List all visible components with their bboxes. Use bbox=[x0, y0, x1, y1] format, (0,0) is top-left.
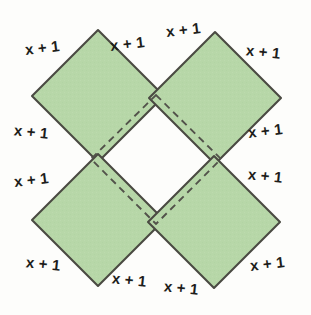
edge-label-tl-lower-left: x + 1 bbox=[13, 122, 49, 141]
edge-label-br-lower-left: x + 1 bbox=[163, 278, 199, 297]
geometry-figure: x + 1 x + 1 x + 1 x + 1 x + 1 x + 1 x + … bbox=[0, 0, 311, 315]
edge-label-br-lower-right: x + 1 bbox=[249, 254, 285, 273]
edge-label-bl-lower-left: x + 1 bbox=[25, 254, 61, 273]
edge-label-tr-lower-right: x + 1 bbox=[247, 121, 283, 140]
squares-group bbox=[32, 30, 281, 288]
edge-label-bl-lower-right: x + 1 bbox=[111, 270, 147, 289]
edge-label-tl-upper-right: x + 1 bbox=[109, 34, 145, 53]
edge-label-tl-upper-left: x + 1 bbox=[24, 38, 60, 57]
edge-label-tr-upper-left: x + 1 bbox=[165, 20, 201, 39]
edge-label-tr-upper-right: x + 1 bbox=[245, 42, 281, 61]
edge-label-br-upper-right: x + 1 bbox=[247, 166, 283, 185]
edge-label-bl-upper-left: x + 1 bbox=[13, 170, 49, 189]
